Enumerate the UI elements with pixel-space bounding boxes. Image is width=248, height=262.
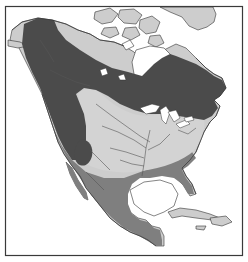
north-america-map-svg <box>0 0 248 262</box>
range-map <box>0 0 248 262</box>
